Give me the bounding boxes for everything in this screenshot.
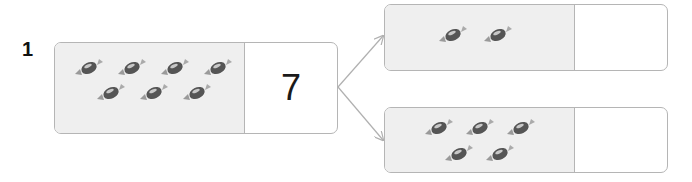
candy-icon [437,25,469,45]
part-box-top [384,4,668,71]
part-bottom-answer-field[interactable] [575,108,667,172]
part-bottom-picture-area [385,108,575,172]
candy-icon [443,144,475,164]
arrow-to-top-part [338,36,383,87]
part-top-answer-field[interactable] [575,5,667,70]
part-top-picture-area [385,5,575,70]
candy-icon [505,118,537,138]
part-box-bottom [384,107,668,173]
candy-icon [484,144,516,164]
arrow-to-bottom-part [338,87,383,140]
candy-icon [464,118,496,138]
candy-icon [482,25,514,45]
candy-icon [423,118,455,138]
